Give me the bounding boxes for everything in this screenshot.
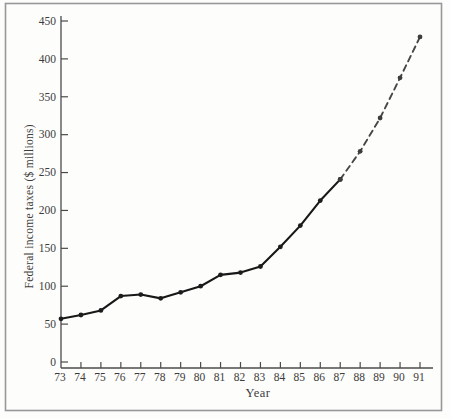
- y-tick-label: 200: [39, 204, 57, 216]
- x-tick-label: 73: [54, 371, 66, 383]
- x-tick-label: 88: [353, 371, 365, 383]
- projected-line: [340, 37, 420, 179]
- x-axis-title: Year: [198, 386, 318, 401]
- actual-data-point: [298, 223, 303, 228]
- actual-data-point: [98, 308, 103, 313]
- actual-data-point: [59, 316, 64, 321]
- y-tick-label: 0: [50, 356, 56, 368]
- x-tick-label: 82: [234, 371, 246, 383]
- x-tick-label: 80: [194, 371, 206, 383]
- x-tick-label: 91: [413, 371, 425, 383]
- actual-data-point: [118, 294, 123, 299]
- projected-data-point: [338, 177, 343, 182]
- x-tick-label: 89: [373, 371, 385, 383]
- y-axis-title-text: Federal income taxes ($ millions): [23, 124, 35, 288]
- projected-data-point: [418, 35, 423, 40]
- x-tick-label: 76: [114, 371, 126, 383]
- x-tick-label: 77: [134, 371, 146, 383]
- y-tick-label: 250: [39, 166, 57, 178]
- x-tick-label: 75: [94, 371, 106, 383]
- x-tick-label: 84: [274, 371, 286, 383]
- actual-data-point: [218, 272, 223, 277]
- y-tick-label: 300: [39, 128, 57, 140]
- x-tick-label: 87: [333, 371, 345, 383]
- projected-data-point: [378, 116, 383, 121]
- actual-data-point: [278, 244, 283, 249]
- actual-data-point: [79, 313, 84, 318]
- x-tick-label: 85: [294, 371, 306, 383]
- y-axis-title: Federal income taxes ($ millions): [21, 38, 37, 374]
- actual-data-point: [198, 284, 203, 289]
- projected-data-point: [358, 149, 363, 154]
- x-tick-label: 86: [314, 371, 326, 383]
- actual-data-point: [258, 264, 263, 269]
- actual-data-point: [178, 290, 183, 295]
- projected-data-point: [398, 75, 403, 80]
- x-tick-label: 74: [74, 371, 86, 383]
- x-tick-label: 78: [154, 371, 166, 383]
- y-tick-label: 450: [39, 15, 57, 27]
- figure-frame: [6, 4, 442, 411]
- actual-data-point: [318, 198, 323, 203]
- x-tick-label: 83: [254, 371, 266, 383]
- federal-taxes-figure: 0501001502002503003504004507374757677787…: [0, 0, 451, 419]
- x-tick-label: 79: [174, 371, 186, 383]
- y-tick-label: 400: [39, 53, 57, 65]
- y-tick-label: 50: [45, 318, 57, 330]
- tax-line-chart: 0501001502002503003504004507374757677787…: [0, 0, 451, 419]
- actual-data-point: [158, 296, 163, 301]
- actual-data-point: [138, 292, 143, 297]
- actual-line: [61, 179, 340, 318]
- y-tick-label: 350: [39, 91, 57, 103]
- x-tick-label: 90: [393, 371, 405, 383]
- y-tick-label: 150: [39, 242, 57, 254]
- y-tick-label: 100: [39, 280, 57, 292]
- x-tick-label: 81: [214, 371, 226, 383]
- actual-data-point: [238, 270, 243, 275]
